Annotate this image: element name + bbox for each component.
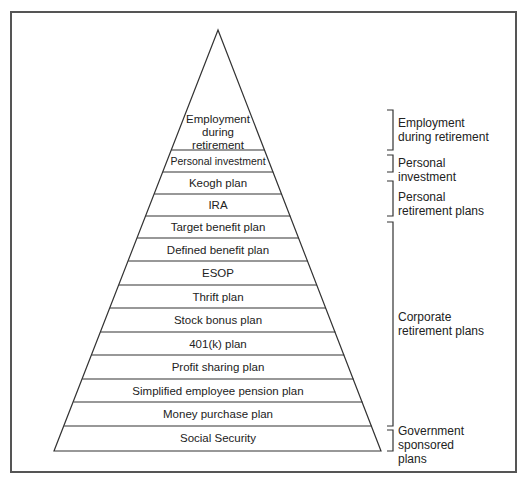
group-label-line: plans xyxy=(398,452,464,466)
group-label-line: Personal xyxy=(398,190,484,204)
group-label-line: retirement plans xyxy=(398,324,484,338)
bracket-personal-investment xyxy=(387,155,393,172)
group-label-line: investment xyxy=(398,170,456,184)
tier-label-money-purchase: Money purchase plan xyxy=(163,408,273,420)
tier-label-thrift: Thrift plan xyxy=(192,291,243,303)
tier-label-employment: during xyxy=(202,126,234,138)
group-label-line: Government xyxy=(398,424,464,438)
group-label-corporate: Corporate retirement plans xyxy=(398,310,484,338)
tier-label-keogh: Keogh plan xyxy=(189,177,247,189)
tier-label-sep: Simplified employee pension plan xyxy=(132,385,303,397)
tier-label-personal-investment: Personal investment xyxy=(170,155,265,167)
tier-label-esop: ESOP xyxy=(202,267,234,279)
tier-label-profit-sharing: Profit sharing plan xyxy=(172,361,265,373)
group-label-line: sponsored xyxy=(398,438,464,452)
bracket-government xyxy=(387,430,393,451)
group-label-line: during retirement xyxy=(398,130,489,144)
bracket-corporate xyxy=(387,222,393,426)
group-label-line: Personal xyxy=(398,156,456,170)
bracket-personal-retirement xyxy=(387,181,393,216)
tier-label-ira: IRA xyxy=(208,199,228,211)
tier-label-401k: 401(k) plan xyxy=(189,338,247,350)
group-label-government: Government sponsored plans xyxy=(398,424,464,466)
group-label-personal-investment: Personal investment xyxy=(398,156,456,184)
bracket-employment xyxy=(387,110,393,150)
group-label-line: retirement plans xyxy=(398,204,484,218)
tier-label-target-benefit: Target benefit plan xyxy=(171,221,266,233)
tier-label-employment: retirement xyxy=(192,139,245,151)
tier-label-defined-benefit: Defined benefit plan xyxy=(167,244,269,256)
tier-label-employment: Employment xyxy=(186,113,251,125)
group-label-employment: Employment during retirement xyxy=(398,116,489,144)
tier-label-social-security: Social Security xyxy=(180,432,256,444)
pyramid-diagram: Employment during retirement Personal in… xyxy=(0,0,527,484)
group-label-personal-retirement: Personal retirement plans xyxy=(398,190,484,218)
group-label-line: Employment xyxy=(398,116,489,130)
tier-label-stock-bonus: Stock bonus plan xyxy=(174,314,262,326)
group-label-line: Corporate xyxy=(398,310,484,324)
